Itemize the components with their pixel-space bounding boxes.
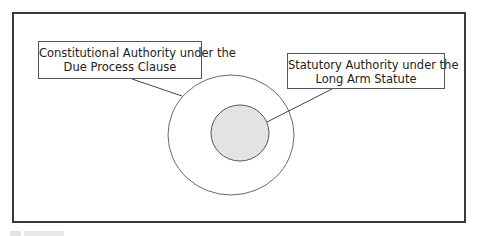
inner-circle-statutory-authority bbox=[211, 105, 269, 161]
truncated-caption bbox=[10, 231, 100, 236]
label-line-2: Long Arm Statute bbox=[288, 72, 444, 86]
leader-line-left bbox=[132, 79, 182, 96]
label-line-2: Due Process Clause bbox=[39, 60, 201, 74]
label-line-1: Constitutional Authority under the bbox=[39, 46, 201, 60]
nested-circles-diagram bbox=[0, 0, 477, 236]
label-constitutional-authority: Constitutional Authority under the Due P… bbox=[38, 41, 202, 79]
label-line-1: Statutory Authority under the bbox=[288, 58, 444, 72]
label-statutory-authority: Statutory Authority under the Long Arm S… bbox=[287, 53, 445, 89]
